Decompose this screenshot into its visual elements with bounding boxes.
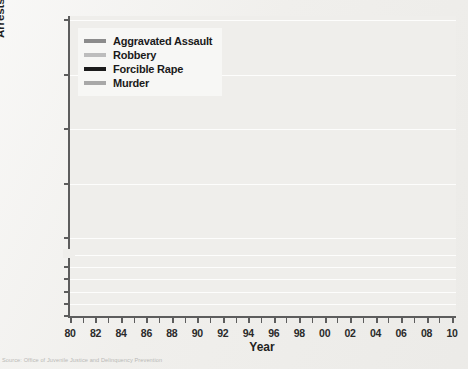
gridline: [70, 267, 456, 268]
x-tick-label: 98: [294, 327, 305, 339]
x-tick-mark: [108, 318, 109, 323]
x-tick-mark: [414, 318, 415, 323]
x-tick-mark: [83, 318, 84, 323]
legend-label: Robbery: [113, 49, 156, 61]
x-tick-mark: [337, 318, 338, 323]
gridline: [70, 184, 456, 185]
gridline: [70, 279, 456, 280]
legend-item: Forcible Rape: [84, 62, 212, 76]
legend-label: Aggravated Assault: [113, 35, 212, 47]
gridline: [70, 238, 456, 239]
x-tick-mark: [159, 318, 160, 323]
legend-swatch-icon: [84, 67, 106, 72]
source-note: Source: Office of Juvenile Justice and D…: [2, 357, 162, 363]
legend-swatch-icon: [84, 53, 106, 57]
x-tick-label: 84: [115, 327, 126, 339]
plot-area: 1001502002503000510152025 80828486889092…: [68, 16, 456, 318]
legend: Aggravated AssaultRobberyForcible RapeMu…: [78, 28, 222, 96]
gridline: [70, 129, 456, 130]
x-tick-label: 82: [90, 327, 101, 339]
x-tick-label: 86: [141, 327, 152, 339]
x-tick-mark: [185, 318, 186, 323]
x-tick-label: 90: [192, 327, 203, 339]
x-tick-mark: [286, 318, 287, 323]
x-tick-label: 10: [446, 327, 457, 339]
x-tick-label: 08: [421, 327, 432, 339]
legend-label: Forcible Rape: [113, 63, 183, 75]
figure-container: Arrests per 100,000 Juveniles, Aged 10–1…: [0, 0, 468, 369]
x-axis-title: Year: [68, 340, 456, 354]
legend-item: Robbery: [84, 48, 212, 62]
legend-swatch-icon: [84, 39, 106, 43]
x-tick-label: 80: [64, 327, 75, 339]
gridline: [70, 20, 456, 21]
x-tick-label: 96: [268, 327, 279, 339]
x-tick-mark: [236, 318, 237, 323]
x-tick-label: 88: [166, 327, 177, 339]
legend-label: Murder: [113, 77, 149, 89]
x-tick-mark: [439, 318, 440, 323]
x-tick-label: 06: [396, 327, 407, 339]
axis-break-marker: [63, 249, 75, 258]
gridline: [70, 292, 456, 293]
gridline: [70, 255, 456, 256]
legend-swatch-icon: [84, 81, 106, 85]
legend-item: Murder: [84, 76, 212, 90]
x-tick-mark: [388, 318, 389, 323]
x-tick-mark: [261, 318, 262, 323]
legend-item: Aggravated Assault: [84, 34, 212, 48]
y-axis-title: Arrests per 100,000 Juveniles, Aged 10–1…: [0, 0, 6, 38]
y-axis-line: [68, 16, 70, 318]
x-tick-label: 94: [243, 327, 254, 339]
x-tick-mark: [312, 318, 313, 323]
gridline: [70, 304, 456, 305]
x-tick-label: 92: [217, 327, 228, 339]
x-tick-label: 02: [345, 327, 356, 339]
x-tick-label: 00: [319, 327, 330, 339]
x-tick-mark: [134, 318, 135, 323]
x-tick-label: 04: [370, 327, 381, 339]
x-axis-line: [68, 316, 456, 318]
x-tick-mark: [210, 318, 211, 323]
x-tick-mark: [363, 318, 364, 323]
